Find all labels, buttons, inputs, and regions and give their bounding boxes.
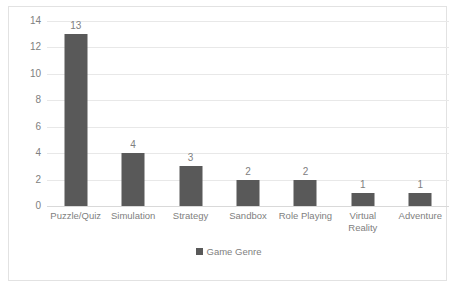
bar[interactable] (64, 34, 87, 206)
bar[interactable] (236, 180, 259, 206)
bar-value-label: 1 (417, 180, 423, 190)
bar-value-label: 1 (360, 180, 366, 190)
bar-value-label: 3 (188, 153, 194, 163)
bar[interactable] (179, 166, 202, 206)
bar-value-label: 4 (130, 140, 136, 150)
y-axis-tick-label: 0 (35, 201, 41, 211)
bar-slot: 4 (104, 21, 161, 206)
plot-area: 02468101214 13432211 (47, 21, 449, 206)
y-axis-tick-label: 6 (35, 122, 41, 132)
bar-value-label: 13 (70, 21, 81, 31)
bar-value-label: 2 (245, 167, 251, 177)
bar[interactable] (122, 153, 145, 206)
bar[interactable] (294, 180, 317, 206)
category-axis-label: Simulation (104, 210, 161, 222)
category-axis-label: Strategy (162, 210, 219, 222)
bar-slot: 1 (392, 21, 449, 206)
y-axis-tick-label: 12 (30, 42, 41, 52)
y-axis-tick-label: 4 (35, 148, 41, 158)
y-axis-tick-label: 10 (30, 69, 41, 79)
bar-slot: 2 (219, 21, 276, 206)
category-axis: Puzzle/QuizSimulationStrategySandboxRole… (47, 210, 449, 244)
category-axis-label: Puzzle/Quiz (47, 210, 104, 222)
category-axis-label: Role Playing (277, 210, 334, 222)
bar-slot: 13 (47, 21, 104, 206)
y-axis-tick-label: 8 (35, 95, 41, 105)
legend-label: Game Genre (207, 247, 262, 257)
category-axis-label: Virtual Reality (334, 210, 391, 234)
bar-slot: 2 (277, 21, 334, 206)
category-axis-label: Sandbox (219, 210, 276, 222)
category-axis-label: Adventure (392, 210, 449, 222)
y-axis-tick-label: 2 (35, 175, 41, 185)
bar-slot: 1 (334, 21, 391, 206)
bar-value-label: 2 (303, 167, 309, 177)
bar-slot: 3 (162, 21, 219, 206)
y-axis-tick-label: 14 (30, 16, 41, 26)
bars-group: 13432211 (47, 21, 449, 206)
bar[interactable] (409, 193, 432, 206)
chart-container: 02468101214 13432211 Puzzle/QuizSimulati… (8, 6, 447, 281)
chart-legend: Game Genre (9, 247, 448, 257)
bar[interactable] (351, 193, 374, 206)
legend-swatch-icon (196, 248, 203, 255)
gridline (47, 206, 449, 207)
